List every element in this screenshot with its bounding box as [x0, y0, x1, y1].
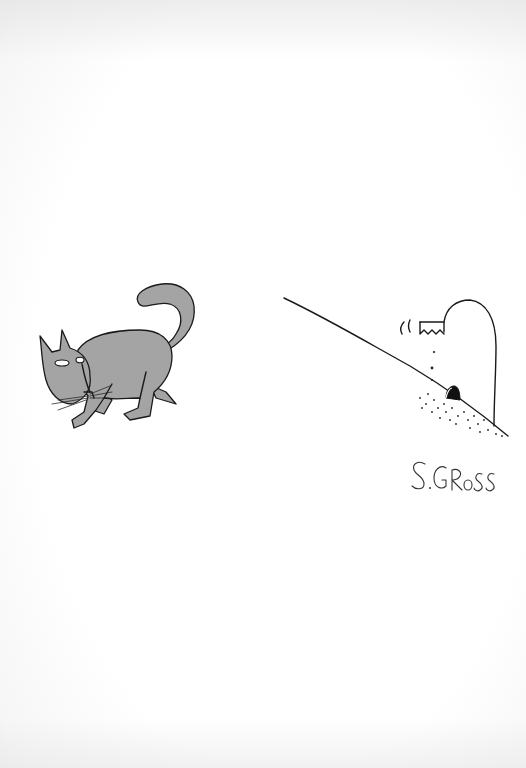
mouse-hole-icon [446, 386, 460, 400]
cat-eye-left-icon [55, 360, 69, 366]
cartoon-illustration [0, 0, 526, 768]
signature-drawing [412, 462, 494, 490]
cat-eye-right-icon [76, 357, 84, 363]
hill-drawing [284, 298, 508, 437]
cartoon-paper: S.GROSS [0, 0, 526, 768]
cat-drawing [40, 284, 194, 428]
